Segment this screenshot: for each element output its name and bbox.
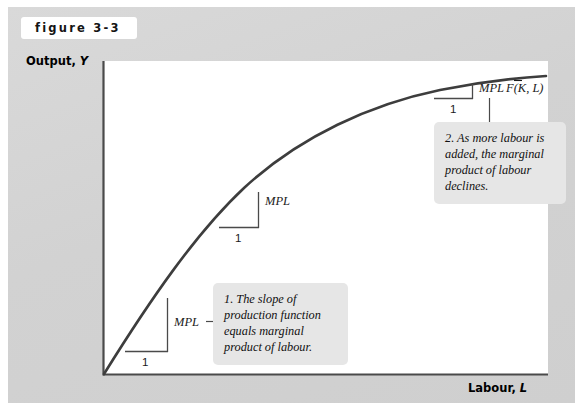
slope-marker-2: MPL 1 [219,192,290,244]
production-function-label: F(K, L) [505,81,544,96]
slope-marker-1-run-label: 1 [142,356,148,368]
production-function-label-text: F(K, L) [505,81,544,95]
annotation-callout-1: 1. The slope of production function equa… [213,283,348,365]
annotation-callout-1-text: 1. The slope of production function equa… [224,292,321,354]
annotation-callout-2-text: 2. As more labour is added, the marginal… [445,131,544,193]
slope-marker-3-mpl-label: MPL [478,81,504,95]
annotation-callout-2: 2. As more labour is added, the marginal… [434,122,566,204]
pf-label-rest: , L) [526,81,543,95]
figure-container: figure 3-3 Output, Y Labour, L MPL 1 MPL… [0,0,583,411]
slope-marker-1-mpl-label: MPL [173,315,199,329]
slope-marker-2-run-label: 1 [235,232,241,244]
slope-marker-1: MPL 1 [125,298,199,368]
slope-marker-2-mpl-label: MPL [264,194,290,208]
pf-label-f: F( [505,81,519,95]
slope-marker-3: MPL 1 [434,81,504,115]
slope-marker-3-run-label: 1 [450,103,456,115]
